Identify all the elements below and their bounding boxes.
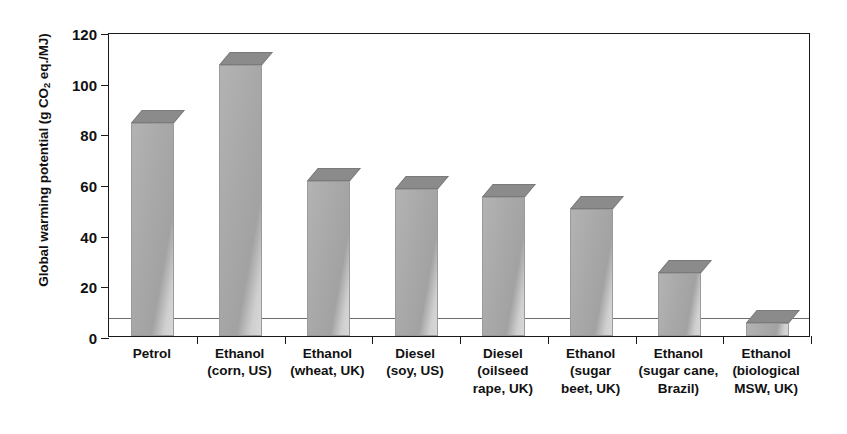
y-axis-tick	[101, 287, 109, 288]
x-axis-category-label-line: Petrol	[102, 345, 202, 362]
x-axis-category-label: Ethanol(sugarbeet, UK)	[541, 345, 641, 397]
bar	[482, 184, 525, 336]
bar-top-face	[570, 196, 624, 209]
x-axis-category-label-line: (biological	[716, 362, 816, 379]
y-axis-tick	[101, 186, 109, 187]
y-axis-tick-label: 20	[80, 279, 97, 296]
x-axis-category-label: Ethanol(sugar cane,Brazil)	[629, 345, 729, 397]
y-axis-tick-label: 80	[80, 127, 97, 144]
bar-front-face	[658, 273, 701, 336]
bar-front-face	[395, 189, 438, 336]
x-axis-category-label-line: Ethanol	[190, 345, 290, 362]
x-axis-category-label-line: Ethanol	[716, 345, 816, 362]
y-axis-tick-label: 40	[80, 228, 97, 245]
bar-top-face	[131, 110, 185, 123]
bar-top-face	[219, 52, 273, 65]
x-axis-category-label-line: Ethanol	[541, 345, 641, 362]
y-axis-tick-label: 100	[72, 76, 97, 93]
x-axis-category-label-line: beet, UK)	[541, 380, 641, 397]
bar-front-face	[746, 323, 789, 336]
x-axis-tick	[372, 336, 373, 344]
x-axis-category-label: Diesel(soy, US)	[365, 345, 465, 380]
bar	[395, 176, 438, 336]
x-axis-category-label-line: Diesel	[453, 345, 553, 362]
x-axis-category-label-line: Brazil)	[629, 380, 729, 397]
bar	[219, 52, 262, 336]
y-axis-tick-label: 60	[80, 178, 97, 195]
y-axis-title-post: eq./MJ)	[36, 33, 51, 82]
bar	[746, 310, 789, 336]
y-axis-tick-label: 0	[89, 330, 97, 347]
x-axis-tick	[723, 336, 724, 344]
y-axis-tick	[101, 135, 109, 136]
bar-top-face	[482, 184, 536, 197]
chart-figure: Global warming potential (g CO2 eq./MJ) …	[0, 0, 847, 434]
bar-top-face	[307, 168, 361, 181]
bar-front-face	[307, 181, 350, 336]
y-axis-tick	[101, 338, 109, 339]
x-axis-category-label-line: (wheat, UK)	[278, 362, 378, 379]
x-axis-category-label-line: rape, UK)	[453, 380, 553, 397]
plot-inner: 020406080100120	[109, 34, 809, 336]
x-axis-category-label-line: (sugar cane,	[629, 362, 729, 379]
x-axis-tick	[548, 336, 549, 344]
x-axis-category-label-line: Ethanol	[629, 345, 729, 362]
bar-front-face	[570, 209, 613, 336]
bar	[658, 260, 701, 336]
x-axis-category-label-line: (oilseed	[453, 362, 553, 379]
bar	[570, 196, 613, 336]
x-axis-category-label-line: MSW, UK)	[716, 380, 816, 397]
y-axis-tick	[101, 85, 109, 86]
y-axis-title-subscript: 2	[41, 83, 52, 88]
x-axis-tick	[460, 336, 461, 344]
bar-top-face	[658, 260, 712, 273]
y-axis-title-pre: Global warming potential (g CO	[36, 88, 51, 287]
x-axis-category-label-line: (soy, US)	[365, 362, 465, 379]
bar-top-face	[395, 176, 449, 189]
x-axis-category-label-line: Ethanol	[278, 345, 378, 362]
x-axis-category-label-line: (corn, US)	[190, 362, 290, 379]
x-axis-category-label: Ethanol(wheat, UK)	[278, 345, 378, 380]
bar	[131, 110, 174, 336]
x-axis-tick	[636, 336, 637, 344]
x-axis-category-label: Diesel(oilseedrape, UK)	[453, 345, 553, 397]
x-axis-category-label-line: (sugar	[541, 362, 641, 379]
y-axis-title: Global warming potential (g CO2 eq./MJ)	[36, 10, 52, 310]
x-axis-category-label: Ethanol(corn, US)	[190, 345, 290, 380]
bar-top-face	[746, 310, 800, 323]
y-axis-tick	[101, 237, 109, 238]
y-axis-tick-label: 120	[72, 26, 97, 43]
y-axis-tick	[101, 34, 109, 35]
x-axis-category-label: Petrol	[102, 345, 202, 362]
bar	[307, 168, 350, 336]
bar-front-face	[131, 123, 174, 336]
x-axis-tick	[811, 336, 812, 344]
bar-front-face	[219, 65, 262, 336]
x-axis-tick	[285, 336, 286, 344]
x-axis-category-label-line: Diesel	[365, 345, 465, 362]
x-axis-category-label: Ethanol(biologicalMSW, UK)	[716, 345, 816, 397]
x-axis-tick	[197, 336, 198, 344]
reference-line	[109, 318, 809, 319]
plot-area: 020406080100120	[108, 33, 810, 337]
bar-front-face	[482, 197, 525, 336]
